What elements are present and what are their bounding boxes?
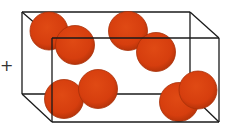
atom-sphere bbox=[45, 80, 84, 119]
molecule-2 bbox=[109, 12, 176, 72]
diagram-canvas: + bbox=[0, 0, 228, 132]
box-depth-edge-top-right bbox=[190, 12, 219, 38]
plus-sign: + bbox=[0, 58, 13, 74]
molecules-group bbox=[30, 12, 217, 122]
molecule-3 bbox=[45, 70, 118, 119]
atom-sphere bbox=[56, 26, 95, 65]
atom-sphere bbox=[179, 71, 217, 109]
atom-sphere bbox=[79, 70, 118, 109]
box-with-molecules bbox=[0, 0, 228, 132]
molecule-4 bbox=[160, 71, 218, 122]
